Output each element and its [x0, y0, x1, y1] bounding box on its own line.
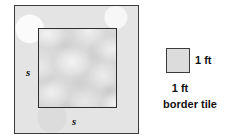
side-length-label-left: s: [26, 67, 30, 78]
legend-swatch-row: 1 ft: [166, 48, 212, 73]
side-length-label-bottom: s: [72, 116, 76, 127]
inner-square-texture: [38, 28, 117, 108]
legend-tile-height-label: 1 ft: [195, 55, 212, 66]
figure-page: s s 1 ft 1 ft border tile: [0, 0, 228, 140]
legend: 1 ft 1 ft border tile: [152, 44, 228, 112]
legend-caption-label: border tile: [163, 98, 217, 110]
patio-diagram: s s: [14, 5, 139, 134]
border-tile-swatch-icon: [166, 48, 190, 73]
inner-square-patio: [38, 28, 117, 108]
legend-caption-wrap: border tile: [152, 94, 228, 112]
legend-tile-width-label: 1 ft: [172, 82, 189, 94]
